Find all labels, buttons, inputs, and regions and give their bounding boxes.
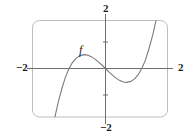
y-axis-bottom-label: −2 <box>100 122 112 133</box>
figure-container: 2 −2 −2 2 f <box>0 0 195 138</box>
graph-canvas <box>0 0 195 138</box>
y-axis-top-label: 2 <box>103 3 109 14</box>
function-label: f <box>79 44 82 56</box>
x-axis-left-label: −2 <box>16 62 28 73</box>
x-axis-right-label: 2 <box>178 62 184 73</box>
